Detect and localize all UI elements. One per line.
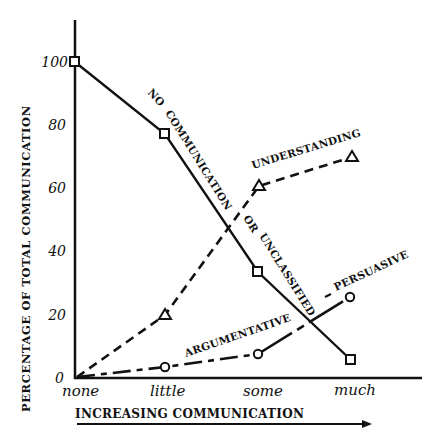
label-communication: COMMUNICATION: [163, 108, 235, 213]
circle-marker-icon: [254, 350, 262, 358]
x-tick-labels: none little some much: [62, 381, 376, 400]
y-tick-40: 40: [47, 243, 66, 259]
series-understanding-markers: [159, 151, 358, 319]
y-axis-label: PERCENTAGE OF TOTAL COMMUNICATION: [19, 105, 33, 412]
label-persuasive: PERSUASIVE: [332, 248, 410, 293]
x-tick-some: some: [243, 382, 283, 400]
persuasive-leader-dash: [325, 294, 331, 297]
circle-marker-icon: [346, 293, 354, 301]
y-tick-80: 80: [48, 117, 66, 133]
line-chart: PERCENTAGE OF TOTAL COMMUNICATION 0 20 4…: [0, 0, 440, 446]
x-tick-none: none: [62, 382, 99, 400]
label-argumentative: ARGUMENTATIVE: [182, 311, 293, 359]
triangle-marker-icon: [346, 151, 358, 161]
square-marker-icon: [160, 129, 169, 138]
y-tick-100: 100: [41, 54, 68, 70]
y-tick-labels: 0 20 40 60 80 100: [41, 54, 68, 386]
label-or: OR: [241, 213, 261, 235]
label-unclassified: UNCLASSIFIED: [257, 231, 318, 318]
label-understanding: UNDERSTANDING: [250, 126, 362, 171]
square-marker-icon: [253, 267, 262, 276]
x-tick-much: much: [334, 381, 376, 399]
x-tick-little: little: [150, 382, 185, 400]
y-tick-60: 60: [48, 180, 66, 196]
y-tick-20: 20: [47, 307, 66, 323]
label-no: NO: [146, 86, 168, 108]
series-no-communication-markers: [70, 57, 355, 364]
circle-marker-icon: [161, 363, 169, 371]
arrowhead-icon: [362, 420, 372, 428]
square-marker-icon: [70, 57, 79, 66]
square-marker-icon: [346, 355, 355, 364]
x-axis-label: INCREASING COMMUNICATION: [75, 407, 304, 421]
